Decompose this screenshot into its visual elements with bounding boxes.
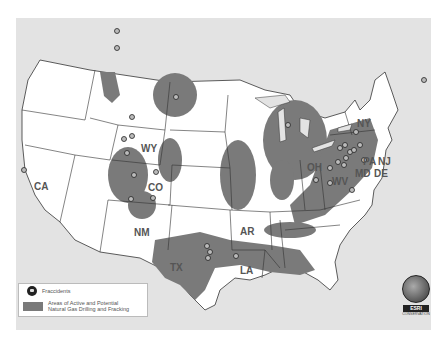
esri-logo: ESRI CONSERVATION bbox=[398, 275, 434, 321]
legend-areas-line2: Natural Gas Drilling and Fracking bbox=[48, 306, 129, 312]
state-label-co: CO bbox=[148, 182, 163, 193]
esri-brand: ESRI bbox=[403, 305, 429, 312]
state-label-tx: TX bbox=[170, 262, 183, 273]
drilling-area-swatch bbox=[23, 302, 43, 311]
state-label-wy: WY bbox=[141, 143, 157, 154]
legend-fraccidents: Fraccidents bbox=[19, 284, 147, 298]
state-label-la: LA bbox=[240, 265, 253, 276]
fraccident-skull-icon bbox=[27, 286, 37, 296]
legend-drilling-areas: Areas of Active and Potential Natural Ga… bbox=[19, 298, 147, 314]
state-label-md: MD bbox=[355, 168, 371, 179]
map-legend: Fraccidents Areas of Active and Potentia… bbox=[18, 283, 148, 317]
state-label-ny: NY bbox=[357, 118, 371, 129]
state-label-oh: OH bbox=[307, 162, 322, 173]
state-label-nj: NJ bbox=[378, 156, 391, 167]
legend-fraccidents-label: Fraccidents bbox=[42, 288, 70, 294]
state-label-pa: PA bbox=[363, 156, 376, 167]
esri-subtext: CONSERVATION bbox=[398, 312, 434, 316]
globe-icon bbox=[402, 275, 430, 303]
state-label-ca: CA bbox=[34, 181, 48, 192]
state-label-ar: AR bbox=[240, 226, 255, 237]
state-label-wv: WV bbox=[332, 176, 348, 187]
state-label-de: DE bbox=[374, 168, 388, 179]
state-label-nm: NM bbox=[134, 227, 150, 238]
